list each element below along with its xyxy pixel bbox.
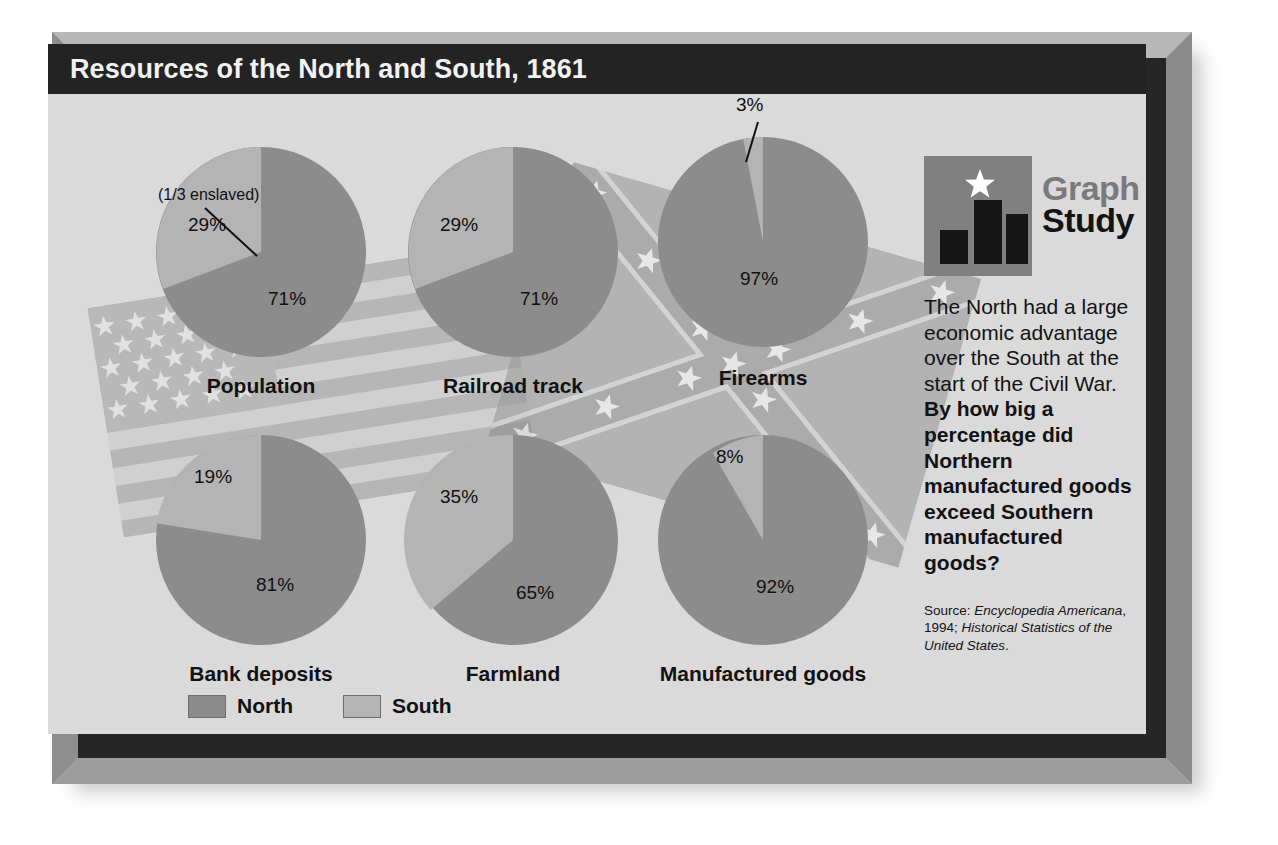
title-bar: Resources of the North and South, 1861: [48, 44, 1146, 94]
logo-wordmark: Graph Study: [1042, 172, 1140, 237]
pie-railroad-south-value: 29%: [440, 214, 478, 236]
chart-body: Population 29% 71% (1/3 enslaved) Railro…: [48, 94, 1146, 734]
pie-firearms-label: Firearms: [648, 366, 878, 390]
legend-label-north: North: [237, 694, 293, 718]
pie-farmland-label: Farmland: [398, 662, 628, 686]
pie-population-north-value: 71%: [268, 288, 306, 310]
pie-farmland-north-value: 65%: [516, 582, 554, 604]
logo-word-graph: Graph: [1042, 172, 1140, 204]
side-blurb: The North had a large economic advantage…: [924, 294, 1142, 576]
pie-firearms-north-value: 97%: [740, 268, 778, 290]
pie-population-label: Population: [146, 374, 376, 398]
firearms-leader-line: [744, 120, 768, 166]
pie-firearms-south-value: 3%: [736, 94, 763, 116]
pie-chart-firearms: Firearms 3% 97%: [648, 126, 878, 426]
bar-chart-icon-bar2: [974, 200, 1002, 264]
side-panel: Graph Study The North had a large econom…: [924, 156, 1142, 654]
source-prefix: Source:: [924, 603, 974, 618]
frame-bevel-right: [1166, 32, 1192, 784]
pie-bank-label: Bank deposits: [146, 662, 376, 686]
population-enslaved-note: (1/3 enslaved): [158, 186, 259, 204]
pie-chart-population: Population 29% 71%: [146, 136, 376, 426]
pie-railroad-north-value: 71%: [520, 288, 558, 310]
pie-railroad-svg: [398, 136, 628, 368]
legend-swatch-south: [343, 695, 381, 718]
star-icon: [964, 168, 996, 200]
population-leader-line: [203, 206, 273, 266]
graph-study-logo: Graph Study: [924, 156, 1142, 288]
bar-chart-icon-bar3: [1006, 214, 1028, 264]
poster-stage: Resources of the North and South, 1861: [0, 0, 1278, 845]
content-panel: Resources of the North and South, 1861: [48, 44, 1146, 734]
pie-farmland-svg: [398, 424, 628, 656]
pie-manufactured-north-value: 92%: [756, 576, 794, 598]
legend-label-south: South: [392, 694, 451, 718]
chart-legend: North South: [188, 694, 451, 718]
blurb-question: By how big a percentage did Northern man…: [924, 397, 1132, 574]
pie-chart-manufactured-goods: Manufactured goods 8% 92%: [648, 424, 878, 714]
pie-chart-railroad-track: Railroad track 29% 71%: [398, 136, 628, 426]
pie-manufactured-south-value: 8%: [716, 446, 743, 468]
pie-bank-north-value: 81%: [256, 574, 294, 596]
logo-word-study: Study: [1042, 204, 1140, 236]
pie-chart-farmland: Farmland 35% 65%: [398, 424, 628, 714]
bar-chart-icon-bar1: [940, 230, 968, 264]
legend-item-south[interactable]: South: [343, 694, 451, 718]
pie-chart-bank-deposits: Bank deposits 19% 81%: [146, 424, 376, 714]
source-work-1: Encyclopedia Americana: [974, 603, 1122, 618]
page-title: Resources of the North and South, 1861: [70, 54, 587, 85]
pie-farmland-south-value: 35%: [440, 486, 478, 508]
logo-box: [924, 156, 1032, 276]
pie-manufactured-svg: [648, 424, 878, 656]
pie-bank-south-value: 19%: [194, 466, 232, 488]
source-suffix: .: [1005, 638, 1009, 653]
pie-railroad-label: Railroad track: [398, 374, 628, 398]
blurb-intro: The North had a large economic advantage…: [924, 295, 1128, 395]
pie-manufactured-label: Manufactured goods: [648, 662, 878, 686]
pie-bank-svg: [146, 424, 376, 656]
legend-swatch-north: [188, 695, 226, 718]
source-citation: Source: Encyclopedia Americana, 1994; Hi…: [924, 602, 1142, 655]
legend-item-north[interactable]: North: [188, 694, 293, 718]
frame-bevel-bottom: [52, 758, 1192, 784]
